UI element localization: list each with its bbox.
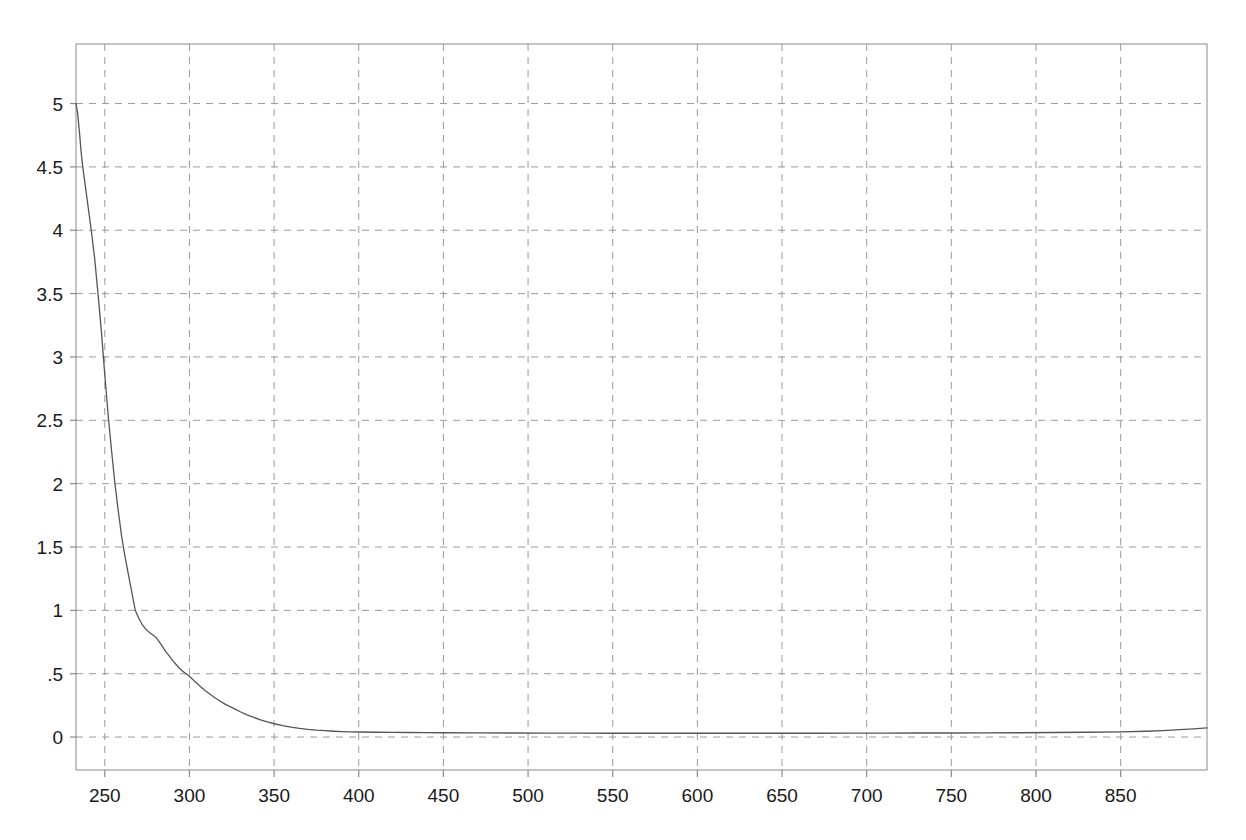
y-tick-label: 0 <box>0 728 63 747</box>
y-tick-label: 3 <box>0 347 63 366</box>
x-tick-label: 650 <box>766 786 798 805</box>
tick-marks <box>70 104 1121 777</box>
x-tick-label: 850 <box>1105 786 1137 805</box>
x-tick-label: 350 <box>258 786 290 805</box>
data-series-lines <box>76 104 1207 734</box>
grid-lines-vertical <box>105 44 1121 770</box>
x-tick-label: 250 <box>89 786 121 805</box>
y-tick-label: 1.5 <box>0 538 63 557</box>
x-tick-label: 750 <box>935 786 967 805</box>
x-tick-label: 450 <box>428 786 460 805</box>
x-tick-label: 500 <box>512 786 544 805</box>
axis-frame <box>76 44 1207 770</box>
y-tick-label: 4.5 <box>0 157 63 176</box>
x-tick-label: 400 <box>343 786 375 805</box>
series-line-0 <box>76 104 1207 734</box>
y-tick-label: 5 <box>0 94 63 113</box>
x-tick-label: 550 <box>597 786 629 805</box>
plot-frame <box>76 44 1207 770</box>
y-tick-label: .5 <box>0 664 63 683</box>
x-tick-label: 300 <box>174 786 206 805</box>
x-tick-label: 700 <box>851 786 883 805</box>
y-tick-label: 2.5 <box>0 411 63 430</box>
y-tick-label: 4 <box>0 221 63 240</box>
y-tick-label: 1 <box>0 601 63 620</box>
y-tick-label: 2 <box>0 474 63 493</box>
y-tick-label: 3.5 <box>0 284 63 303</box>
grid-lines-horizontal <box>76 104 1207 738</box>
x-tick-label: 600 <box>682 786 714 805</box>
x-tick-label: 800 <box>1020 786 1052 805</box>
chart-figure: 0.511.522.533.544.55 2503003504004505005… <box>0 0 1246 840</box>
plot-canvas <box>0 0 1246 840</box>
